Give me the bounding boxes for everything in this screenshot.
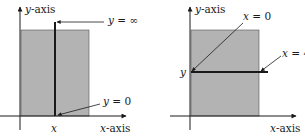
left-bottom-annotation: y = 0 bbox=[102, 95, 131, 107]
right-y-tick-label: y bbox=[179, 66, 187, 78]
right-right-pointer-arrow bbox=[261, 56, 281, 71]
left-top-annotation: y = ∞ bbox=[107, 14, 138, 26]
diagram-canvas: y-axis y = ∞ y = 0 x x-axis y-axis x = 0… bbox=[0, 0, 305, 140]
left-x-tick-label: x bbox=[51, 122, 57, 134]
left-panel: y-axis y = ∞ y = 0 x x-axis bbox=[0, 3, 138, 134]
right-x-axis-label: x-axis bbox=[270, 122, 300, 134]
left-y-axis-label: y-axis bbox=[24, 3, 55, 15]
right-y-axis-label: y-axis bbox=[194, 3, 225, 15]
right-left-annotation: x = 0 bbox=[243, 10, 271, 22]
right-right-annotation: x = 4 bbox=[282, 47, 305, 59]
right-panel: y-axis x = 0 x = 4 y x-axis bbox=[170, 3, 305, 134]
left-x-axis-label: x-axis bbox=[100, 122, 130, 134]
